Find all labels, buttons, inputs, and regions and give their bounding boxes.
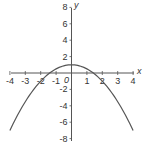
y-tick-label: -4	[59, 101, 67, 111]
y-tick-label: 4	[62, 35, 67, 45]
parabola-plot: -4-3-2-11234 8642-2-4-6-8 x y 0	[0, 0, 145, 153]
y-tick-label: -6	[59, 117, 67, 127]
y-tick-label: 8	[62, 2, 67, 12]
origin-label: 0	[64, 75, 69, 85]
x-tick-label: -4	[6, 76, 14, 86]
y-tick-label: 2	[62, 52, 67, 62]
y-tick-label: -8	[59, 134, 67, 144]
y-tick-label: 6	[62, 19, 67, 29]
x-axis-label: x	[136, 66, 142, 76]
x-tick-label: 4	[131, 76, 136, 86]
x-tick-label: 3	[115, 76, 120, 86]
y-tick-label: -2	[59, 84, 67, 94]
x-tick-label: -3	[21, 76, 29, 86]
x-tick-label: 1	[84, 76, 89, 86]
chart-svg: -4-3-2-11234 8642-2-4-6-8 x y 0	[0, 0, 145, 153]
y-axis-label: y	[73, 0, 79, 10]
